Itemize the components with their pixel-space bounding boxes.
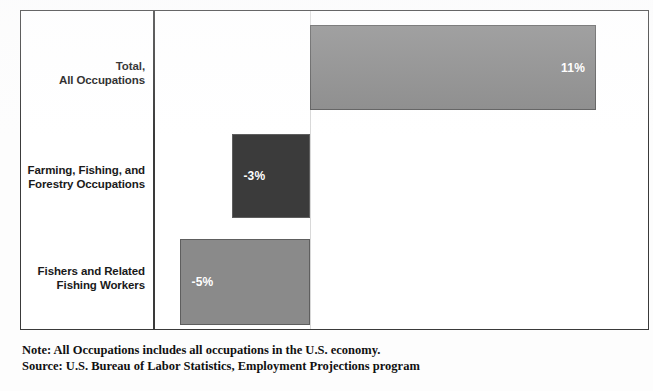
bar-value-label: -3% [233,169,265,183]
category-label-column: Total, All Occupations Farming, Fishing,… [21,11,153,329]
footnote-note: Note: All Occupations includes all occup… [22,342,642,358]
chart-plot-frame: Total, All Occupations Farming, Fishing,… [20,10,649,330]
bar-farming-fishing-forestry: -3% [232,134,310,218]
category-label-line-2: Forestry Occupations [21,177,145,191]
footnote-source: Source: U.S. Bureau of Labor Statistics,… [22,358,642,374]
category-label-line-1: Total, [21,59,145,73]
bar-total-all-occupations: 11% [310,25,596,110]
category-label-fishers-and-related-fishing-workers: Fishers and Related Fishing Workers [21,264,145,292]
bar-value-label: -5% [181,275,213,289]
chart-figure: Total, All Occupations Farming, Fishing,… [0,0,653,391]
category-label-line-2: All Occupations [21,73,145,87]
category-label-line-1: Farming, Fishing, and [21,163,145,177]
bar-value-label: 11% [561,61,595,75]
category-label-total-all-occupations: Total, All Occupations [21,59,145,87]
chart-footnote: Note: All Occupations includes all occup… [22,342,642,374]
category-label-line-1: Fishers and Related [21,264,145,278]
bar-fishers-and-related-fishing-workers: -5% [180,239,310,325]
category-label-farming-fishing-forestry: Farming, Fishing, and Forestry Occupatio… [21,163,145,191]
category-label-line-2: Fishing Workers [21,278,145,292]
plot-area: 11% -3% -5% [155,11,649,329]
